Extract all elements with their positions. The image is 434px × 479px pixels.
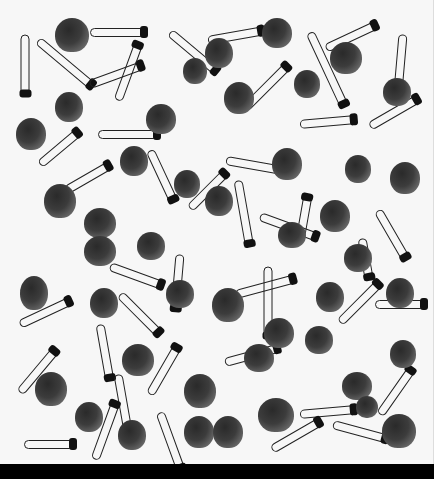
clam-shell	[174, 170, 200, 198]
clam-shell	[316, 282, 344, 312]
safety-pin	[24, 440, 74, 449]
clam-shell	[90, 288, 118, 318]
clam-shell	[390, 340, 416, 368]
clam-shell	[383, 78, 411, 106]
bottom-black-band	[0, 464, 433, 479]
clam-shell	[278, 222, 306, 248]
clam-shell	[272, 148, 302, 180]
safety-pin	[332, 420, 387, 443]
safety-pin	[98, 130, 158, 139]
clam-shell	[213, 416, 243, 448]
safety-pin	[300, 405, 356, 419]
clam-shell	[184, 374, 216, 408]
safety-pin	[156, 411, 185, 464]
clam-shell	[137, 232, 165, 260]
clam-shell	[320, 200, 350, 232]
clam-shell	[55, 92, 83, 122]
clam-shell	[122, 344, 154, 376]
clam-shell	[16, 118, 46, 150]
clam-shell	[55, 18, 89, 52]
safety-pin	[146, 149, 177, 203]
clam-shell	[84, 208, 116, 238]
safety-pin	[376, 367, 415, 417]
clam-shell	[212, 288, 244, 322]
clam-shell	[205, 186, 233, 216]
safety-pin	[234, 180, 254, 246]
clam-shell	[344, 244, 372, 272]
clam-shell	[244, 344, 274, 372]
clam-shell	[390, 162, 420, 194]
safety-pin	[374, 208, 409, 260]
safety-pin	[90, 28, 145, 37]
clam-shell	[262, 18, 292, 48]
safety-pin	[96, 324, 114, 380]
clam-shell	[166, 280, 194, 308]
safety-pin	[300, 115, 356, 129]
safety-pin	[108, 262, 163, 289]
clam-shell	[294, 70, 320, 98]
safety-pin	[21, 35, 30, 95]
clam-shell	[305, 326, 333, 354]
clam-shell	[258, 398, 294, 432]
clam-shell	[330, 42, 362, 74]
clam-shell	[20, 276, 48, 310]
clam-shell	[120, 146, 148, 176]
clam-shell	[224, 82, 254, 114]
clam-shell	[386, 278, 414, 308]
clam-shell	[146, 104, 176, 134]
clam-shell	[44, 184, 76, 218]
safety-pin	[117, 291, 162, 336]
clam-shell	[183, 58, 207, 84]
clam-shell	[205, 38, 233, 68]
clam-shell	[75, 402, 103, 432]
clam-shell	[84, 236, 116, 266]
clam-shell	[264, 318, 294, 348]
clam-shell	[356, 396, 378, 418]
clam-shell	[35, 372, 67, 406]
clam-shell	[184, 416, 214, 448]
photo-canvas	[0, 0, 434, 464]
clam-shell	[345, 155, 371, 183]
clam-shell	[118, 420, 146, 450]
clam-shell	[382, 414, 416, 448]
